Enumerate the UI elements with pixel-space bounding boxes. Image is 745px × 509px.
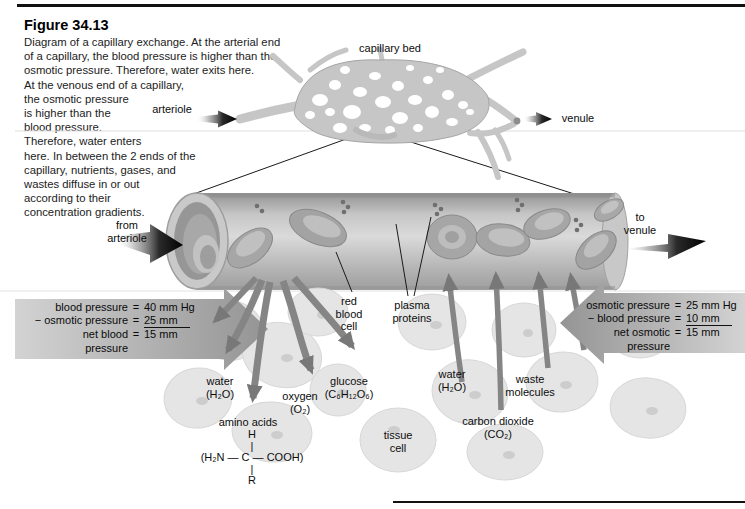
- tissue-cell-label: tissue cell: [384, 429, 413, 454]
- capillary-bed-network: [240, 49, 523, 177]
- venule-opening: [514, 118, 521, 125]
- equation-label: osmotic pressure: [578, 299, 670, 312]
- capillary-exchange-illustration: [0, 0, 745, 509]
- arteriole-label: arteriole: [152, 103, 192, 116]
- equation-label: pressure: [16, 342, 150, 355]
- equation-value: 15 mm: [686, 326, 720, 339]
- equation-label: pressure: [578, 340, 688, 353]
- equals-sign: =: [128, 301, 144, 314]
- equation-row: pressure: [16, 342, 195, 355]
- equation-row: osmotic pressure = 25 mm Hg: [578, 299, 737, 312]
- equation-label: − blood pressure: [578, 312, 670, 326]
- equation-value: 40 mm Hg: [144, 301, 195, 314]
- equals-sign: =: [670, 312, 686, 326]
- equation-row: pressure: [578, 340, 737, 353]
- equals-sign: =: [670, 299, 686, 312]
- equation-row: − blood pressure = 10 mm: [578, 312, 737, 326]
- equals-sign: =: [670, 326, 686, 339]
- capillary-tube: [166, 193, 628, 290]
- osmotic-pressure-equation: osmotic pressure = 25 mm Hg − blood pres…: [578, 299, 737, 353]
- equation-value: 10 mm: [686, 312, 732, 326]
- arteriole-vessel: [240, 106, 296, 119]
- carbon-dioxide-label: carbon dioxide (CO₂): [462, 415, 534, 440]
- water-in-label: water (H₂O): [438, 368, 466, 393]
- blood-pressure-equation: blood pressure = 40 mm Hg − osmotic pres…: [16, 301, 195, 355]
- equation-label: blood pressure: [16, 301, 128, 314]
- from-arteriole-label: from arteriole: [107, 219, 147, 244]
- figure-34-13-page: Figure 34.13 Diagram of a capillary exch…: [0, 0, 745, 509]
- equation-row: − osmotic pressure = 25 mm: [16, 314, 195, 328]
- to-venule-arrow-icon: [622, 234, 706, 259]
- rbc-face-on: [427, 215, 477, 259]
- equation-row: net blood = 15 mm: [16, 328, 195, 341]
- amino-acids-label: amino acids: [219, 416, 278, 429]
- amino-acid-formula: H | (H₂N — C — COOH) | R: [201, 429, 304, 487]
- equation-value: 15 mm: [144, 328, 178, 341]
- red-blood-cell-label: red blood cell: [336, 295, 363, 333]
- equation-row: blood pressure = 40 mm Hg: [16, 301, 195, 314]
- glucose-label: glucose (C₆H₁₂O₆): [325, 375, 374, 400]
- venule-arrow-icon: [523, 112, 552, 126]
- arteriole-arrow-icon: [196, 111, 237, 128]
- equation-label: net osmotic: [578, 326, 670, 339]
- waste-molecules-label: waste molecules: [505, 373, 555, 398]
- equation-label: − osmotic pressure: [16, 314, 128, 328]
- to-venule-label: to venule: [624, 211, 656, 236]
- oxygen-label: oxygen (O₂): [282, 390, 317, 415]
- equals-sign: =: [128, 314, 144, 328]
- equation-label: net blood: [16, 328, 128, 341]
- plasma-proteins-label: plasma proteins: [392, 299, 431, 324]
- venule-label: venule: [562, 112, 594, 125]
- equals-sign: =: [128, 328, 144, 341]
- equation-value: 25 mm Hg: [686, 299, 737, 312]
- equation-row: net osmotic = 15 mm: [578, 326, 737, 339]
- capillary-bed-label: capillary bed: [359, 42, 421, 55]
- equation-value: 25 mm: [144, 314, 190, 328]
- water-out-label: water (H₂O): [206, 375, 234, 400]
